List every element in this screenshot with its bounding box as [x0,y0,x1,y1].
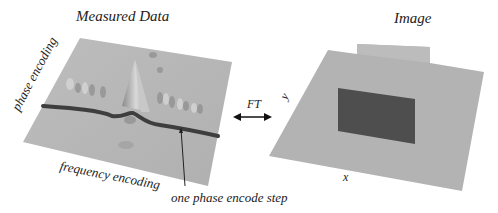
right-panel-title: Image [394,10,432,27]
phase-encode-step-annotation: one phase encode step [171,190,288,206]
x-axis-label: x [343,170,348,185]
left-panel-title: Measured Data [76,8,169,25]
ft-label: FT [247,97,261,112]
double-arrow-icon [233,113,272,121]
